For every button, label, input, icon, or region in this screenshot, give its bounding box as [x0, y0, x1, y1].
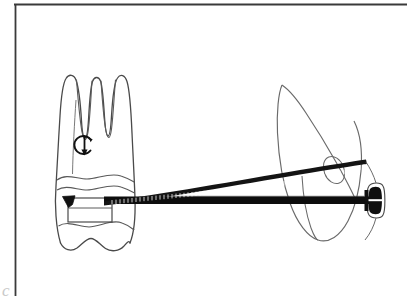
page-background: [0, 0, 407, 307]
medical-illustration-figure: [0, 0, 407, 307]
scan-artifact-glyph: c: [2, 281, 10, 301]
figure-page: c: [0, 0, 407, 307]
handle-collar: [365, 190, 369, 211]
